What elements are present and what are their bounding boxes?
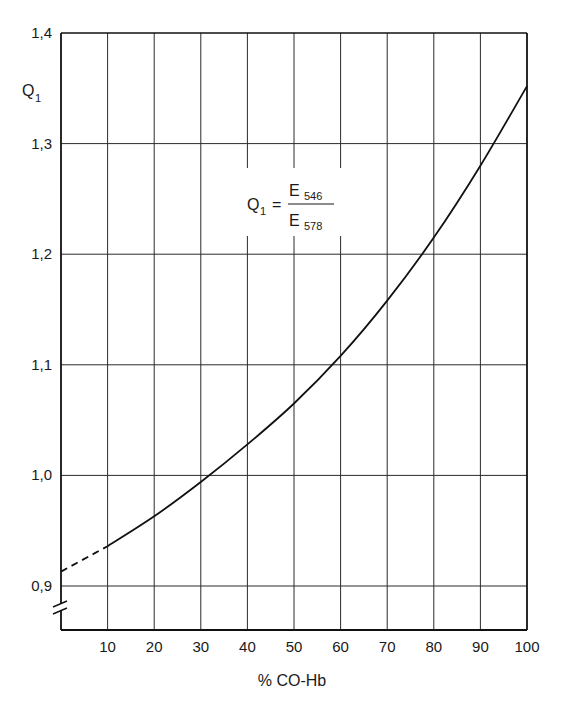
y-tick-label: 1,2 — [31, 245, 52, 262]
x-tick-label: 100 — [514, 638, 539, 655]
x-tick-label: 60 — [332, 638, 349, 655]
plot-frame — [53, 33, 527, 630]
x-tick-label: 90 — [472, 638, 489, 655]
y-axis-label-sub: 1 — [35, 92, 41, 104]
formula-lhs-main: Q — [247, 196, 259, 213]
x-tick-label: 20 — [146, 638, 163, 655]
axis-break-mark-upper — [53, 601, 67, 607]
formula-equals: = — [272, 196, 281, 213]
x-tick-label: 40 — [239, 638, 256, 655]
curve-extrapolated — [61, 546, 108, 571]
axis-break-mark-lower — [53, 608, 67, 614]
curve-q1 — [108, 86, 527, 546]
x-tick-label: 70 — [379, 638, 396, 655]
y-tick-label: 1,1 — [31, 356, 52, 373]
formula-denominator-sub: 578 — [304, 220, 322, 232]
y-tick-label: 1,0 — [31, 466, 52, 483]
formula-denominator-main: E — [289, 212, 300, 229]
x-tick-label: 10 — [99, 638, 116, 655]
x-tick-label: 80 — [425, 638, 442, 655]
x-axis-label: % CO-Hb — [258, 672, 327, 689]
grid-lines — [61, 33, 527, 630]
formula-background — [225, 168, 343, 236]
y-axis-label: Q 1 — [22, 82, 41, 104]
y-tick-label: 1,4 — [31, 24, 52, 41]
y-tick-label: 0,9 — [31, 577, 52, 594]
x-tick-label: 30 — [192, 638, 209, 655]
formula-numerator-main: E — [289, 182, 300, 199]
x-axis-ticks: 102030405060708090100 — [99, 638, 539, 655]
formula-lhs-sub: 1 — [260, 205, 266, 217]
formula-annotation: Q 1 = E 546 E 578 — [225, 168, 343, 236]
y-axis-label-main: Q — [22, 82, 34, 99]
y-axis-ticks: 0,91,01,11,21,31,4 — [31, 24, 52, 594]
formula-numerator-sub: 546 — [304, 190, 322, 202]
x-tick-label: 50 — [286, 638, 303, 655]
chart: 0,91,01,11,21,31,4 102030405060708090100… — [0, 0, 561, 709]
y-tick-label: 1,3 — [31, 135, 52, 152]
